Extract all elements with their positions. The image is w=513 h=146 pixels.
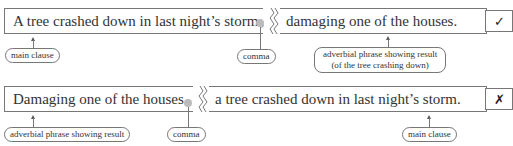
example2-comma-highlight (184, 99, 192, 107)
example2-label-adverbial: adverbial phrase showing result (4, 127, 130, 142)
example1-clause-a-box: A tree crashed down in last night’s stor… (4, 8, 263, 34)
example1-label-adverbial: adverbial phrase showing result (of the … (314, 47, 446, 73)
example2-adverbial-connector (33, 118, 34, 127)
example2-clause-a-text: Damaging one of the houses (13, 91, 184, 108)
example1-comma-highlight (256, 19, 264, 27)
example1-clause-b-text: damaging one of the houses. (286, 13, 457, 30)
example1-label-adverbial-line2: (of the tree crashing down) (323, 60, 437, 71)
example2-label-main-clause: main clause (402, 127, 457, 142)
example2-main-clause-connector (429, 118, 430, 127)
example1-label-adverbial-line1: adverbial phrase showing result (323, 49, 437, 60)
example1-adverbial-connector (388, 39, 389, 47)
example2-verdict-cross-icon: ✗ (485, 88, 513, 110)
example1-verdict-check-icon: ✓ (485, 10, 513, 32)
example2-label-comma: comma (167, 127, 206, 142)
example1-comma-connector (260, 27, 261, 49)
example1-clause-a-text: A tree crashed down in last night’s stor… (13, 13, 258, 30)
example2-clause-a-box: Damaging one of the houses , (4, 86, 193, 112)
example1-label-main-clause: main clause (5, 48, 60, 63)
example2-clause-b-text: a tree crashed down in last night’s stor… (215, 91, 461, 108)
example1-main-clause-connector (33, 40, 34, 48)
example1-clause-b-box: damaging one of the houses. (280, 8, 487, 34)
example2-clause-b-box: a tree crashed down in last night’s stor… (209, 86, 487, 112)
example1-label-comma: comma (237, 49, 276, 64)
example2-comma-connector (188, 107, 189, 127)
